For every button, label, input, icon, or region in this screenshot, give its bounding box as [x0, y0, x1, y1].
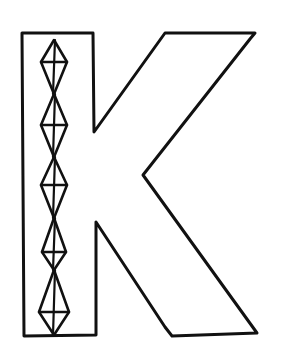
diamond-center-line [53, 157, 55, 218]
diamond-center-line [53, 218, 55, 270]
letter-k-illustration [0, 0, 281, 362]
diamond-chain [39, 40, 69, 335]
letter-k-drawing [0, 0, 281, 362]
diamond-center-line [53, 94, 55, 157]
diamond-center-line [53, 270, 55, 335]
diamond-center-line [53, 40, 55, 94]
